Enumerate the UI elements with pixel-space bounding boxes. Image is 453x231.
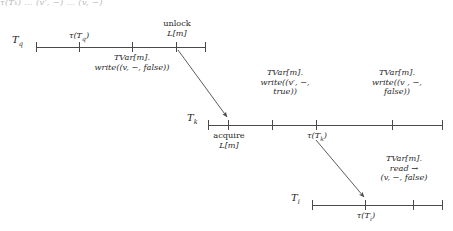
timeline-tk-endcap-right [442, 120, 443, 130]
ti-name: T [291, 192, 298, 203]
timeline-tq-tick-unlock [176, 42, 177, 52]
label-tk-write-false-l2: false)) [372, 87, 422, 97]
label-tk-write-true: TVar[m]. write((v′, −, true)) [260, 68, 309, 97]
tk-subscript: k [194, 118, 198, 126]
timeline-label-tq: Tq [12, 34, 23, 48]
label-ti-tau-open: τ(T [357, 210, 370, 220]
timeline-label-tk: Tk [187, 112, 198, 126]
arrow-tauk-to-taui [316, 140, 364, 197]
label-ti-read: TVar[m]. read → (v, −, false) [381, 154, 428, 183]
label-tk-acquire: acquire L[m] [213, 131, 244, 150]
label-acquire-lockvar: L[m] [213, 141, 244, 151]
label-unlock-lockvar: L[m] [163, 29, 191, 39]
timeline-label-ti: Ti [291, 192, 300, 206]
label-ti-read-result: (v, −, false) [381, 173, 428, 183]
timeline-ti-endcap-right [442, 200, 443, 210]
label-tk-tau-close: ) [324, 130, 327, 140]
arrow-unlock-to-acquire [178, 50, 227, 117]
timeline-axis-ti [312, 205, 443, 206]
label-ti-tau-close: ) [372, 210, 375, 220]
label-tq-tau-close: ) [86, 30, 89, 40]
label-tq-write: TVar[m]. write((v, −, false)) [95, 53, 170, 72]
timeline-tq-endcap-right [205, 42, 206, 52]
cropped-top-text: τ(Tₖ) … (v′, −) … (v, −) [0, 0, 453, 6]
label-tq-unlock: unlock L[m] [163, 19, 191, 38]
label-tq-tau: τ(Tq) [69, 31, 89, 43]
timeline-tq-tick-tau [79, 42, 80, 52]
timeline-axis-tk [208, 125, 443, 126]
timeline-tk-tick-write-false [392, 120, 393, 130]
label-tq-write-call: write((v, −, false)) [95, 63, 170, 73]
label-tk-write-false: TVar[m]. write((v , −, false)) [372, 68, 422, 97]
label-tk-tau-open: τ(T [307, 130, 320, 140]
tq-subscript: q [19, 40, 23, 48]
timeline-ti-tick-read [413, 200, 414, 210]
timeline-ti-endcap-left [312, 200, 313, 210]
ti-subscript: i [298, 198, 300, 206]
timeline-ti-tick-tau [365, 200, 366, 210]
timeline-tk-tick-write-true [272, 120, 273, 130]
timeline-tk-tick-acquire [228, 120, 229, 130]
timeline-tq-endcap-left [36, 42, 37, 52]
tq-name: T [12, 34, 19, 45]
timeline-tq-tick-write [132, 42, 133, 52]
label-ti-tau: τ(Ti) [357, 211, 375, 223]
label-tk-tau: τ(Tk) [307, 131, 327, 143]
timeline-tk-tick-tau [316, 120, 317, 130]
timeline-axis-tq [36, 47, 206, 48]
label-tk-write-true-l2: true)) [260, 87, 309, 97]
label-tq-tau-open: τ(T [69, 30, 82, 40]
timeline-tk-endcap-left [208, 120, 209, 130]
tk-name: T [187, 112, 194, 123]
lock-timeline-diagram: τ(Tₖ) … (v′, −) … (v, −) Tq τ(Tq) unlock… [0, 0, 453, 231]
